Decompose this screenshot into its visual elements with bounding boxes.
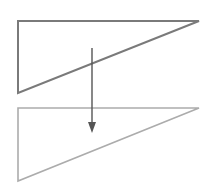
arrow-down-icon [88, 122, 96, 133]
translation-arrow [88, 48, 96, 133]
translation-diagram [0, 0, 211, 187]
source-triangle [18, 21, 199, 93]
target-triangle [18, 108, 199, 181]
